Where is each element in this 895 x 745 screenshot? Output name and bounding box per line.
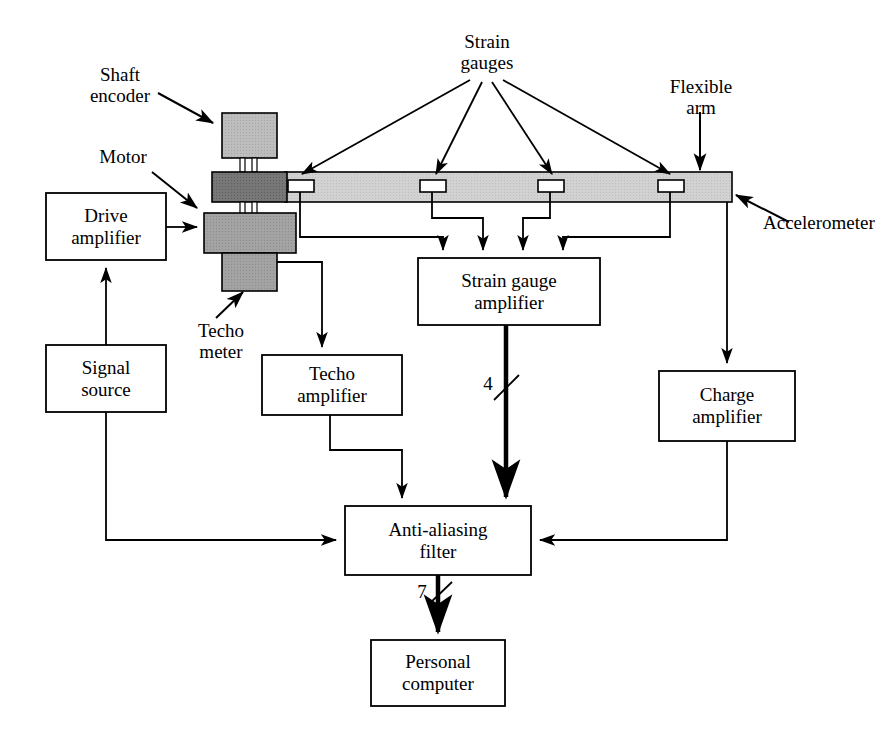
strain-gauge-amplifier-line1: Strain gauge xyxy=(461,270,557,292)
techo-amplifier-line1: Techo xyxy=(297,363,367,385)
bus-label-filter-value: 7 xyxy=(412,581,432,602)
diagram-canvas: Shaft encoder Motor Techo meter Strain g… xyxy=(0,0,895,745)
techo-meter-block xyxy=(204,213,296,291)
callout-flexible-arm-line1: Flexible xyxy=(653,76,749,97)
charge-amplifier-line1: Charge xyxy=(692,384,762,406)
techo-meter-callout-arrow xyxy=(216,292,243,318)
bus-label-strain-value: 4 xyxy=(478,373,498,394)
techo-amplifier-line2: amplifier xyxy=(297,385,367,407)
drive-amplifier-label: Drive amplifier xyxy=(46,193,166,260)
strain-gauge-3 xyxy=(538,180,564,192)
bus-strain-gauge-amplifier-to-filter xyxy=(494,325,519,497)
strain-gauge-amplifier-label: Strain gauge amplifier xyxy=(418,258,600,325)
callout-strain-gauges-line1: Strain xyxy=(437,31,537,52)
callout-accelerometer-line1: Accelerometer xyxy=(763,212,895,233)
signal-source-line1: Signal xyxy=(81,357,131,379)
anti-aliasing-filter-label: Anti-aliasing filter xyxy=(345,506,531,575)
callout-flexible-arm: Flexible arm xyxy=(653,76,749,118)
personal-computer-label: Personal computer xyxy=(371,640,505,706)
signal-source-line2: source xyxy=(81,379,131,401)
strain-gauge-2 xyxy=(420,180,446,192)
anti-aliasing-filter-line1: Anti-aliasing xyxy=(388,519,487,541)
charge-amplifier-line2: amplifier xyxy=(692,406,762,428)
drive-amplifier-line2: amplifier xyxy=(71,227,141,249)
callout-shaft-encoder-line2: encoder xyxy=(70,85,170,106)
techo-amplifier-label: Techo amplifier xyxy=(262,355,402,415)
signal-source-label: Signal source xyxy=(46,345,166,412)
callout-techo-meter-line1: Techo xyxy=(176,320,266,341)
bus-label-strain: 4 xyxy=(478,373,498,394)
drive-amplifier-line1: Drive xyxy=(71,205,141,227)
callout-techo-meter-line2: meter xyxy=(176,341,266,362)
motor-block xyxy=(212,172,287,214)
callout-shaft-encoder-line1: Shaft xyxy=(70,64,170,85)
wire-signal-source-to-filter xyxy=(106,412,336,540)
personal-computer-line2: computer xyxy=(402,673,474,695)
charge-amplifier-label: Charge amplifier xyxy=(659,371,795,441)
callout-motor: Motor xyxy=(78,146,168,167)
wire-charge-amplifier-to-filter xyxy=(540,441,727,540)
callout-flexible-arm-line2: arm xyxy=(653,97,749,118)
wire-techo-meter-to-techo-amplifier xyxy=(277,262,322,347)
callout-strain-gauges: Strain gauges xyxy=(437,31,537,73)
callout-techo-meter: Techo meter xyxy=(176,320,266,362)
callout-strain-gauges-line2: gauges xyxy=(437,52,537,73)
callout-shaft-encoder: Shaft encoder xyxy=(70,64,170,106)
strain-gauge-1 xyxy=(288,180,314,192)
bus-label-filter: 7 xyxy=(412,581,432,602)
callout-accelerometer: Accelerometer xyxy=(763,212,895,233)
strain-gauges-callout-arrows xyxy=(302,80,670,174)
anti-aliasing-filter-line2: filter xyxy=(388,541,487,563)
personal-computer-line1: Personal xyxy=(402,651,474,673)
strain-gauge-4 xyxy=(658,180,684,192)
strain-gauge-amplifier-line2: amplifier xyxy=(461,292,557,314)
shaft-encoder-block xyxy=(222,113,277,172)
wire-techo-amplifier-to-filter xyxy=(330,415,402,498)
callout-motor-line1: Motor xyxy=(78,146,168,167)
